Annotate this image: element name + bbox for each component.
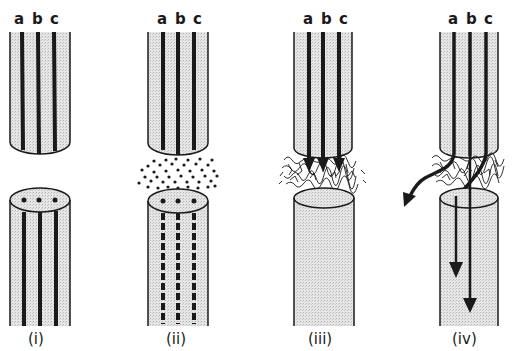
label-b: b bbox=[321, 10, 332, 28]
label-a: a bbox=[448, 10, 458, 28]
panel-i: a b c (i) bbox=[10, 10, 70, 348]
fiber-labels-iv: a b c bbox=[448, 10, 493, 28]
label-c: c bbox=[339, 10, 348, 28]
label-c: c bbox=[193, 10, 202, 28]
arrowhead-a bbox=[303, 158, 315, 172]
label-c: c bbox=[50, 10, 59, 28]
caption-ii: (ii) bbox=[166, 330, 186, 348]
label-c: c bbox=[484, 10, 493, 28]
fiber-labels-iii: a b c bbox=[303, 10, 348, 28]
distal-stump-iv bbox=[440, 156, 498, 326]
label-a: a bbox=[14, 10, 24, 28]
distal-stump-iii bbox=[294, 188, 354, 326]
caption-iv: (iv) bbox=[452, 330, 477, 348]
fiber-labels-ii: a b c bbox=[157, 10, 202, 28]
misdirected-arrowhead bbox=[403, 192, 416, 207]
distal-stump-i bbox=[10, 188, 70, 326]
panel-iv: a b c bbox=[403, 10, 504, 348]
proximal-stump-i bbox=[10, 32, 70, 154]
proximal-stump-ii bbox=[148, 32, 208, 155]
panel-ii: a b c bbox=[137, 10, 218, 348]
label-a: a bbox=[157, 10, 167, 28]
panel-iii: a b c bbox=[279, 10, 366, 348]
distal-stump-ii bbox=[148, 189, 208, 326]
proximal-stump-iv bbox=[440, 32, 498, 158]
label-b: b bbox=[32, 10, 43, 28]
label-b: b bbox=[466, 10, 477, 28]
label-a: a bbox=[303, 10, 313, 28]
axon-sprout-arrows bbox=[303, 32, 345, 172]
fiber-labels-i: a b c bbox=[14, 10, 59, 28]
caption-iii: (iii) bbox=[308, 330, 332, 348]
debris-cloud bbox=[137, 157, 218, 189]
label-b: b bbox=[175, 10, 186, 28]
caption-i: (i) bbox=[28, 330, 44, 348]
nerve-regeneration-diagram: a b c (i) bbox=[0, 0, 522, 351]
